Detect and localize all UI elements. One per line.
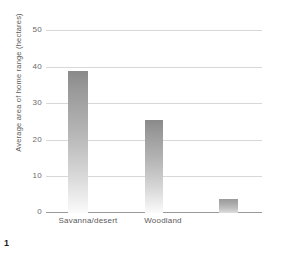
y-axis-title: Average area of home range (hectares) [14, 3, 23, 163]
y-tick-label-10: 10 [22, 172, 42, 180]
y-tick-label-30: 30 [22, 99, 42, 107]
y-tick-label-40: 40 [22, 63, 42, 71]
bar-savanna-desert [68, 71, 88, 213]
x-tick-label-woodland: Woodland [118, 216, 208, 225]
y-tick-label-20: 20 [22, 136, 42, 144]
y-tick-label-0: 0 [22, 208, 42, 216]
bar-woodland [145, 120, 163, 213]
x-axis-ticks: Savanna/desert Woodland [46, 216, 262, 232]
y-tick-label-50: 50 [22, 26, 42, 34]
bar-series [46, 30, 262, 213]
figure-container: 50 40 30 20 10 0 Average area of home ra… [0, 0, 281, 258]
bar-third-category [219, 199, 238, 213]
figure-number: 1 [4, 238, 9, 248]
